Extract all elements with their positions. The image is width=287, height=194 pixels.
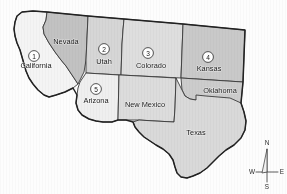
marker-number: 1 (32, 53, 36, 60)
marker-5-arizona[interactable]: 5 (91, 84, 102, 95)
compass-north-label: N (265, 139, 270, 146)
label-california: California (20, 61, 52, 70)
marker-4-kansas[interactable]: 4 (203, 52, 214, 63)
label-oklahoma: Oklahoma (203, 86, 238, 95)
marker-number: 4 (206, 54, 210, 61)
state-new-mexico[interactable] (118, 75, 176, 122)
map-figure: California Nevada Utah Colorado Kansas A… (0, 0, 287, 194)
marker-1-california[interactable]: 1 (29, 51, 40, 62)
label-colorado: Colorado (136, 61, 166, 70)
label-nevada: Nevada (53, 37, 79, 46)
marker-2-utah[interactable]: 2 (99, 44, 110, 55)
state-kansas[interactable] (181, 24, 245, 82)
label-texas: Texas (186, 128, 206, 137)
label-utah: Utah (96, 57, 112, 66)
compass-rose: N S E W (249, 139, 284, 190)
compass-east-label: E (280, 168, 284, 175)
marker-number: 3 (146, 50, 150, 57)
label-new-mexico: New Mexico (125, 100, 165, 109)
map-canvas: California Nevada Utah Colorado Kansas A… (0, 0, 287, 194)
label-kansas: Kansas (197, 64, 222, 73)
label-arizona: Arizona (83, 96, 109, 105)
marker-3-colorado[interactable]: 3 (143, 48, 154, 59)
marker-number: 5 (94, 86, 98, 93)
compass-north-needle (262, 149, 267, 173)
marker-number: 2 (102, 46, 106, 53)
compass-south-label: S (265, 183, 269, 190)
compass-west-label: W (249, 168, 256, 175)
